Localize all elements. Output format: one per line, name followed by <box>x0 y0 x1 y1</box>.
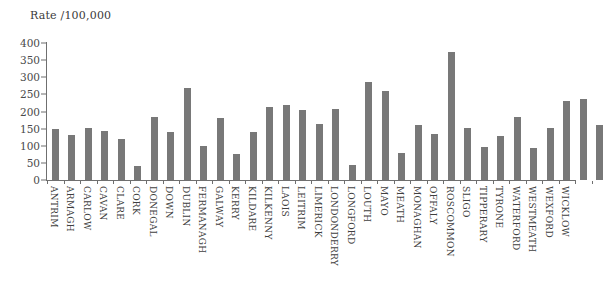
x-axis-tick <box>526 181 527 184</box>
x-axis-tick-label: SLIGO <box>461 186 471 218</box>
x-axis-tick <box>80 181 81 184</box>
bar <box>217 118 224 180</box>
x-axis-tick-label: OFFALY <box>428 186 438 225</box>
y-axis-tick <box>41 111 46 112</box>
y-axis-tick <box>41 77 46 78</box>
x-axis-tick <box>410 181 411 184</box>
x-axis-tick-label: ARMAGH <box>65 186 75 232</box>
y-axis-tick <box>41 94 46 95</box>
bar <box>332 109 339 180</box>
y-axis-tick-label: 350 <box>0 54 40 66</box>
y-axis-tick-label: 50 <box>0 157 40 169</box>
bar <box>563 101 570 180</box>
x-axis-tick-label: MEATH <box>395 186 405 223</box>
x-axis-tick <box>427 181 428 184</box>
bar <box>200 146 207 180</box>
bar <box>398 153 405 180</box>
bar <box>52 129 59 180</box>
bar <box>431 134 438 180</box>
x-axis-tick <box>113 181 114 184</box>
bar <box>101 131 108 180</box>
bar <box>316 124 323 180</box>
bar <box>514 117 521 180</box>
x-axis-tick-label: WEXFORD <box>544 186 554 238</box>
bar-series <box>47 43 575 180</box>
bar <box>481 147 488 180</box>
chart-axis-title: Rate /100,000 <box>30 9 111 22</box>
x-axis-tick <box>443 181 444 184</box>
x-axis-tick <box>196 181 197 184</box>
x-axis-tick-label: CAVAN <box>98 186 108 221</box>
x-axis-tick-label: TIPPERARY <box>478 186 488 243</box>
x-axis-tick <box>344 181 345 184</box>
x-axis-tick <box>394 181 395 184</box>
x-axis-tick-label: DOWN <box>164 186 174 219</box>
bar <box>580 99 587 181</box>
y-axis-tick-label: 100 <box>0 140 40 152</box>
x-axis-tick <box>328 181 329 184</box>
x-axis-tick <box>559 181 560 184</box>
x-axis-tick-label: LONGFORD <box>346 186 356 244</box>
y-axis-tick <box>41 43 46 44</box>
y-axis-tick <box>41 162 46 163</box>
x-axis-tick-label: DUBLIN <box>181 186 191 227</box>
x-axis-tick-label: CARLOW <box>82 186 92 231</box>
x-axis-tick-label: KILKENNY <box>263 186 273 240</box>
x-axis-tick <box>130 181 131 184</box>
x-axis-tick-label: LAOIS <box>280 186 290 217</box>
x-axis-tick-label: LONDONDERRY <box>329 186 339 266</box>
x-axis-tick <box>311 181 312 184</box>
y-axis-tick-label: 400 <box>0 37 40 49</box>
x-axis-tick <box>179 181 180 184</box>
bar <box>151 117 158 180</box>
x-axis-tick <box>229 181 230 184</box>
x-axis-tick <box>592 181 593 184</box>
x-axis-tick-label: CORK <box>131 186 141 215</box>
bar <box>118 139 125 180</box>
x-axis-tick <box>262 181 263 184</box>
bar <box>283 105 290 180</box>
x-axis-tick-label: LOUTH <box>362 186 372 222</box>
x-axis-tick-label: ANTRIM <box>49 186 59 228</box>
bar <box>448 52 455 180</box>
x-axis-tick <box>542 181 543 184</box>
x-axis-tick-label: WICKLOW <box>560 186 570 237</box>
y-axis-tick-label: 0 <box>0 174 40 186</box>
x-axis-tick-label: TYRONE <box>494 186 504 228</box>
y-axis-tick <box>41 128 46 129</box>
bar <box>365 82 372 180</box>
x-axis-tick-label: KILDARE <box>247 186 257 231</box>
x-axis-tick <box>245 181 246 184</box>
x-axis-tick-label: WATERFORD <box>511 186 521 250</box>
bar <box>415 125 422 180</box>
x-axis-tick-label: MAYO <box>379 186 389 216</box>
x-axis-tick <box>97 181 98 184</box>
bar <box>266 107 273 180</box>
bar <box>497 136 504 180</box>
x-axis-tick-label: GALWAY <box>214 186 224 228</box>
x-axis-tick <box>64 181 65 184</box>
bar <box>134 166 141 180</box>
x-axis-tick-label: FERMANAGH <box>197 186 207 253</box>
x-axis-tick <box>278 181 279 184</box>
x-axis-tick <box>146 181 147 184</box>
bar <box>184 88 191 180</box>
bar <box>464 128 471 180</box>
bar <box>596 125 603 180</box>
y-axis-tick-label: 150 <box>0 123 40 135</box>
bar <box>349 165 356 180</box>
x-axis-tick-label: ROSCOMMON <box>445 186 455 257</box>
x-axis-labels: ANTRIMARMAGHCARLOWCAVANCLARECORKDONEGALD… <box>47 186 575 286</box>
x-axis-tick <box>212 181 213 184</box>
bar <box>530 148 537 180</box>
y-axis-tick <box>41 145 46 146</box>
x-axis-tick <box>47 181 48 184</box>
bar <box>68 135 75 180</box>
x-axis-tick <box>295 181 296 184</box>
x-axis-tick <box>509 181 510 184</box>
bar <box>382 91 389 180</box>
x-axis-tick-label: KERRY <box>230 186 240 220</box>
y-axis-tick <box>41 60 46 61</box>
x-axis-tick-label: MONAGHAN <box>412 186 422 249</box>
